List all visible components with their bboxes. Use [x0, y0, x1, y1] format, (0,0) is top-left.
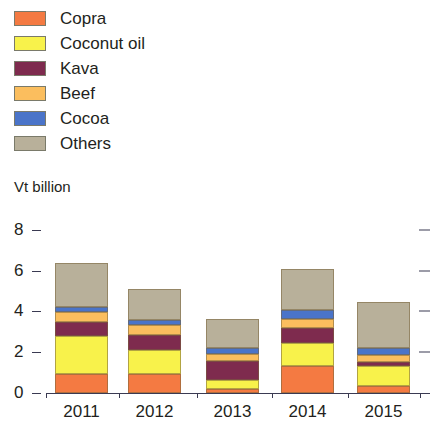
- y-axis-tick-mark: [32, 393, 41, 394]
- bar-segment-cocoa[interactable]: [128, 320, 181, 325]
- bar-2012[interactable]: [128, 0, 181, 393]
- y-axis-tick-mark-right: [419, 229, 430, 230]
- y-axis-tick-mark-right: [419, 352, 430, 353]
- x-axis-tick-mark: [272, 393, 273, 398]
- bar-segment-coconut-oil[interactable]: [206, 380, 259, 389]
- x-axis-tick-mark: [46, 393, 47, 398]
- x-axis-label-2013: 2013: [198, 402, 268, 422]
- y-axis-tick-label: 6: [14, 261, 56, 281]
- bar-segment-cocoa[interactable]: [55, 307, 108, 312]
- bar-segment-beef[interactable]: [55, 312, 108, 322]
- bar-segment-kava[interactable]: [281, 328, 334, 343]
- bar-2011[interactable]: [55, 0, 108, 393]
- bar-segment-others[interactable]: [206, 319, 259, 348]
- x-axis-tick-mark: [420, 393, 421, 398]
- bar-segment-kava[interactable]: [206, 361, 259, 380]
- bar-segment-copra[interactable]: [55, 374, 108, 393]
- x-axis-tick-mark: [119, 393, 120, 398]
- y-axis-tick-mark: [32, 271, 41, 272]
- x-axis-label-2011: 2011: [47, 402, 117, 422]
- x-axis-tick-mark: [348, 393, 349, 398]
- plot-area: 0246820112012201320142015: [0, 0, 436, 428]
- y-axis-tick-mark-right: [419, 270, 430, 271]
- bar-segment-kava[interactable]: [55, 322, 108, 336]
- y-axis-tick-label: 4: [14, 301, 56, 321]
- bar-segment-cocoa[interactable]: [206, 348, 259, 354]
- y-axis-tick-value: 6: [14, 261, 28, 281]
- bar-2014[interactable]: [281, 0, 334, 393]
- stacked-bar-chart: CopraCoconut oilKavaBeefCocoaOthers Vt b…: [0, 0, 436, 428]
- x-axis-label-2014: 2014: [273, 402, 343, 422]
- y-axis-tick-label: 2: [14, 342, 56, 362]
- bar-segment-kava[interactable]: [357, 362, 410, 366]
- bar-segment-coconut-oil[interactable]: [128, 350, 181, 374]
- bar-segment-coconut-oil[interactable]: [55, 336, 108, 373]
- bar-2013[interactable]: [206, 0, 259, 393]
- bar-segment-beef[interactable]: [357, 355, 410, 362]
- x-axis-baseline: [47, 393, 430, 394]
- bar-2015[interactable]: [357, 0, 410, 393]
- y-axis-tick-label: 8: [14, 220, 56, 240]
- bar-segment-others[interactable]: [128, 289, 181, 320]
- bar-segment-coconut-oil[interactable]: [281, 343, 334, 366]
- y-axis-tick-value: 2: [14, 342, 28, 362]
- y-axis-tick-value: 4: [14, 301, 28, 321]
- y-axis-tick-mark-right: [419, 311, 430, 312]
- bar-segment-others[interactable]: [55, 263, 108, 307]
- y-axis-tick-mark: [32, 311, 41, 312]
- bar-segment-cocoa[interactable]: [281, 310, 334, 319]
- bar-segment-copra[interactable]: [206, 389, 259, 393]
- y-axis-tick-value: 0: [14, 383, 28, 403]
- bar-segment-copra[interactable]: [128, 374, 181, 393]
- bar-segment-cocoa[interactable]: [357, 348, 410, 355]
- bar-segment-copra[interactable]: [357, 386, 410, 393]
- x-axis-tick-mark: [197, 393, 198, 398]
- y-axis-tick-mark: [32, 352, 41, 353]
- bar-segment-others[interactable]: [357, 302, 410, 349]
- bar-segment-beef[interactable]: [128, 325, 181, 336]
- x-axis-label-2012: 2012: [120, 402, 190, 422]
- bar-segment-coconut-oil[interactable]: [357, 366, 410, 386]
- bar-segment-others[interactable]: [281, 269, 334, 310]
- x-axis-label-2015: 2015: [349, 402, 419, 422]
- y-axis-tick-mark: [32, 230, 41, 231]
- bar-segment-beef[interactable]: [281, 319, 334, 328]
- y-axis-tick-value: 8: [14, 220, 28, 240]
- bar-segment-beef[interactable]: [206, 354, 259, 361]
- bar-segment-kava[interactable]: [128, 335, 181, 349]
- bar-segment-copra[interactable]: [281, 366, 334, 393]
